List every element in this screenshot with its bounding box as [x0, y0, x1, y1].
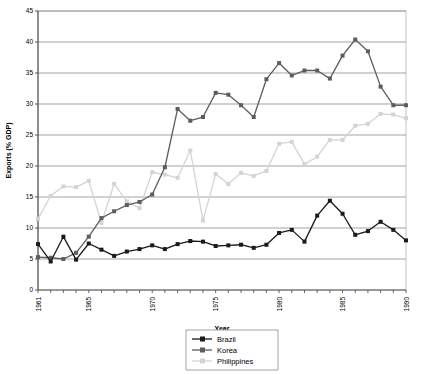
- data-point-marker: [328, 77, 332, 81]
- y-tick-label: 45: [26, 7, 34, 14]
- data-point-marker: [188, 239, 192, 243]
- data-point-marker: [138, 206, 142, 210]
- data-point-marker: [74, 258, 78, 262]
- data-point-marker: [404, 103, 408, 107]
- data-point-marker: [61, 235, 65, 239]
- data-point-marker: [49, 259, 53, 263]
- data-point-marker: [99, 221, 103, 225]
- data-point-marker: [112, 209, 116, 213]
- data-point-marker: [226, 243, 230, 247]
- data-point-marker: [163, 165, 167, 169]
- legend-marker-swatch: [200, 337, 205, 342]
- x-tick-label: 1965: [85, 297, 92, 312]
- data-point-marker: [302, 69, 306, 73]
- data-point-marker: [176, 107, 180, 111]
- data-point-marker: [36, 255, 40, 259]
- data-point-marker: [391, 103, 395, 107]
- data-point-marker: [252, 246, 256, 250]
- data-point-marker: [379, 112, 383, 116]
- data-point-marker: [163, 173, 167, 177]
- data-point-marker: [315, 214, 319, 218]
- plot-area-background: [38, 11, 406, 290]
- data-point-marker: [366, 229, 370, 233]
- data-point-marker: [277, 61, 281, 65]
- data-point-marker: [353, 124, 357, 128]
- data-point-marker: [188, 149, 192, 153]
- y-tick-label: 0: [29, 286, 33, 293]
- data-point-marker: [277, 231, 281, 235]
- data-point-marker: [252, 115, 256, 119]
- data-point-marker: [112, 182, 116, 186]
- data-point-marker: [125, 250, 129, 254]
- data-point-marker: [353, 233, 357, 237]
- data-point-marker: [315, 155, 319, 159]
- data-point-marker: [163, 247, 167, 251]
- x-tick-label: 1980: [276, 297, 283, 312]
- data-point-marker: [125, 199, 129, 203]
- x-axis: 1961196519701975198019851990: [35, 290, 410, 311]
- data-point-marker: [214, 91, 218, 95]
- data-point-marker: [138, 200, 142, 204]
- x-tick-label: 1961: [35, 297, 42, 312]
- data-point-marker: [302, 162, 306, 166]
- data-point-marker: [239, 243, 243, 247]
- data-point-marker: [239, 171, 243, 175]
- data-point-marker: [226, 93, 230, 97]
- data-point-marker: [328, 199, 332, 203]
- data-point-marker: [150, 243, 154, 247]
- data-point-marker: [125, 203, 129, 207]
- data-point-marker: [391, 228, 395, 232]
- data-point-marker: [252, 174, 256, 178]
- data-point-marker: [404, 116, 408, 120]
- data-point-marker: [74, 251, 78, 255]
- data-point-marker: [36, 242, 40, 246]
- chart-figure: 0510152025303540451961196519701975198019…: [0, 0, 421, 374]
- data-point-marker: [341, 212, 345, 216]
- data-point-marker: [150, 193, 154, 197]
- data-point-marker: [201, 115, 205, 119]
- data-point-marker: [264, 77, 268, 81]
- data-point-marker: [239, 103, 243, 107]
- data-point-marker: [150, 170, 154, 174]
- data-point-marker: [87, 235, 91, 239]
- data-point-marker: [379, 220, 383, 224]
- data-point-marker: [366, 122, 370, 126]
- data-point-marker: [138, 247, 142, 251]
- y-tick-label: 30: [26, 100, 34, 107]
- data-point-marker: [61, 184, 65, 188]
- x-tick-label: 1970: [149, 297, 156, 312]
- data-point-marker: [201, 240, 205, 244]
- data-point-marker: [379, 85, 383, 89]
- data-point-marker: [353, 38, 357, 42]
- legend-label: Philippines: [217, 357, 254, 366]
- y-tick-label: 10: [26, 224, 34, 231]
- data-point-marker: [188, 119, 192, 123]
- data-point-marker: [290, 73, 294, 77]
- legend-label: Brazil: [217, 335, 236, 344]
- data-point-marker: [74, 185, 78, 189]
- data-point-marker: [99, 248, 103, 252]
- y-axis: 051015202530354045: [26, 7, 38, 293]
- x-tick-label: 1975: [212, 297, 219, 312]
- data-point-marker: [36, 217, 40, 221]
- data-point-marker: [328, 138, 332, 142]
- x-tick-label: 1990: [403, 297, 410, 312]
- legend: BrazilKoreaPhilippines: [186, 330, 278, 370]
- data-point-marker: [290, 140, 294, 144]
- data-point-marker: [264, 169, 268, 173]
- data-point-marker: [214, 172, 218, 176]
- legend-marker-swatch: [200, 359, 205, 364]
- y-tick-label: 20: [26, 162, 34, 169]
- data-point-marker: [341, 54, 345, 58]
- data-point-marker: [214, 244, 218, 248]
- x-tick-label: 1985: [339, 297, 346, 312]
- data-point-marker: [264, 243, 268, 247]
- data-point-marker: [290, 228, 294, 232]
- legend-marker-swatch: [200, 348, 205, 353]
- data-point-marker: [112, 254, 116, 258]
- data-point-marker: [176, 242, 180, 246]
- data-point-marker: [277, 142, 281, 146]
- data-point-marker: [87, 242, 91, 246]
- data-point-marker: [366, 49, 370, 53]
- data-point-marker: [341, 138, 345, 142]
